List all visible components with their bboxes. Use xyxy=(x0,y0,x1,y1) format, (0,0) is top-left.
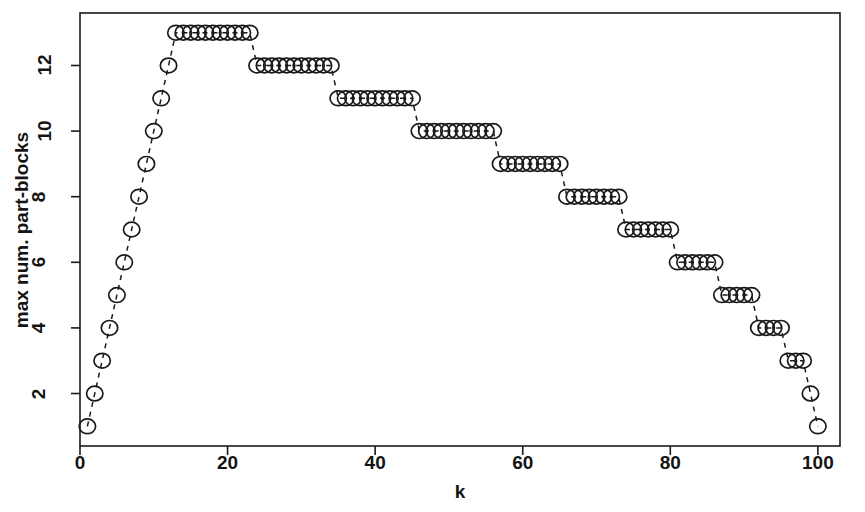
data-point xyxy=(138,156,154,171)
y-tick-label-1: 4 xyxy=(34,317,45,339)
data-point xyxy=(116,255,132,270)
y-tick-label-3: 8 xyxy=(34,186,45,208)
x-tick-label-3: 60 xyxy=(512,452,533,474)
data-point xyxy=(131,189,147,204)
y-tick-label-0: 2 xyxy=(34,383,45,405)
data-points xyxy=(79,25,826,433)
data-connector-line xyxy=(87,33,817,427)
y-tick-label-text: 4 xyxy=(28,323,50,334)
data-point xyxy=(160,58,176,73)
data-point xyxy=(153,91,169,106)
y-tick-label-text: 8 xyxy=(28,191,50,202)
data-point xyxy=(802,386,818,401)
plot-frame xyxy=(80,13,840,446)
x-tick-label-5: 100 xyxy=(802,452,834,474)
plot-border xyxy=(80,13,840,446)
y-tick-label-text: 10 xyxy=(34,121,56,142)
y-tick-label-4: 10 xyxy=(34,120,55,142)
series-line xyxy=(87,33,817,427)
x-tick-label-0: 0 xyxy=(75,452,86,474)
plot-area xyxy=(0,0,865,512)
x-tick-label-4: 80 xyxy=(660,452,681,474)
x-tick-label-2: 40 xyxy=(365,452,386,474)
y-tick-label-2: 6 xyxy=(34,251,45,273)
y-tick-label-text: 6 xyxy=(28,257,50,268)
y-tick-label-text: 12 xyxy=(34,55,56,76)
y-tick-label-5: 12 xyxy=(34,54,55,76)
x-tick-label-1: 20 xyxy=(217,452,238,474)
data-point xyxy=(94,353,110,368)
x-axis-title: k xyxy=(80,481,840,503)
chart-figure: max num. part-blocks k 020406080100 2468… xyxy=(0,0,865,512)
y-tick-label-text: 2 xyxy=(28,388,50,399)
